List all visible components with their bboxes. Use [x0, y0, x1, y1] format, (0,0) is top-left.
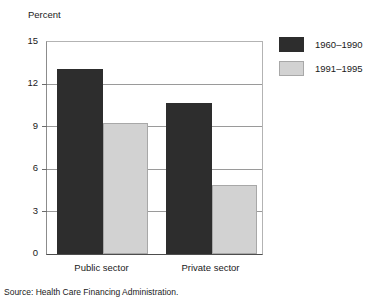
y-axis-tick-mark [42, 211, 47, 212]
chart-legend: 1960–1990 1991–1995 [279, 36, 363, 84]
legend-item-label: 1960–1990 [315, 39, 363, 50]
x-axis-category-label: Public sector [56, 262, 147, 274]
plot-area [46, 41, 263, 255]
bar [212, 185, 258, 254]
y-axis-tick-label: 3 [4, 206, 38, 216]
y-axis-tick-mark [42, 84, 47, 85]
bar [166, 103, 212, 254]
y-axis-tick-mark [42, 126, 47, 127]
y-axis-tick-label: 0 [4, 248, 38, 258]
y-axis-tick-label: 6 [4, 163, 38, 173]
x-axis-category-label: Private sector [165, 262, 256, 274]
legend-item[interactable]: 1991–1995 [279, 60, 363, 76]
legend-swatch-dark-icon [279, 37, 304, 52]
legend-item[interactable]: 1960–1990 [279, 36, 363, 52]
y-axis-tick-label: 12 [4, 78, 38, 88]
bar [103, 123, 149, 254]
source-note: Source: Health Care Financing Administra… [4, 287, 178, 298]
y-axis-tick-mark [42, 169, 47, 170]
y-axis-tick-label: 9 [4, 121, 38, 131]
bar-chart-figure: Percent 1960–1990 1991–1995 Source: Heal… [0, 0, 388, 301]
legend-swatch-light-icon [279, 61, 304, 76]
y-axis-title: Percent [28, 9, 61, 21]
y-axis-tick-label: 15 [4, 36, 38, 46]
legend-item-label: 1991–1995 [315, 63, 363, 74]
bar [57, 69, 103, 254]
